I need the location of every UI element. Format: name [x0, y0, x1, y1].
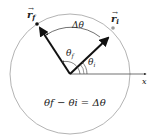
vector-arrow-final: →	[28, 5, 34, 13]
label-theta-f: θf	[66, 48, 75, 60]
label-theta-i: θi	[88, 57, 95, 68]
angular-displacement-diagram: rf → ri → Δθ θf θi x θf − θi = Δθ	[0, 0, 158, 139]
point-initial	[111, 26, 115, 30]
equation: θf − θi = Δθ	[44, 97, 106, 108]
theta-i-arc-2	[80, 64, 84, 74]
label-delta-theta: Δθ	[71, 20, 84, 30]
label-x-axis: x	[142, 77, 147, 86]
point-final	[35, 22, 39, 26]
vector-arrow-initial: →	[112, 9, 118, 17]
vector-r-initial	[70, 38, 108, 74]
